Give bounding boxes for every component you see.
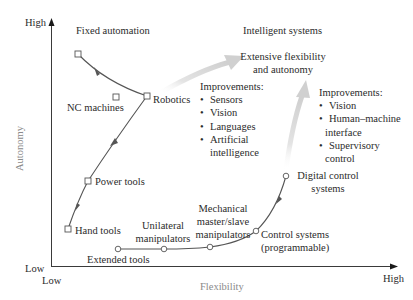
mechanical-manipulators-marker xyxy=(207,244,213,250)
improvement-item: Languages xyxy=(200,120,264,133)
y-axis-title: Autonomy xyxy=(14,124,25,174)
y-axis-high-label: High xyxy=(25,16,46,29)
digital-control-marker xyxy=(283,173,289,179)
improvement-item: Vision xyxy=(200,106,264,119)
improvement-item-continuation: control xyxy=(319,152,401,165)
autonomy-curve xyxy=(68,54,147,229)
label-line: Control systems xyxy=(261,228,329,241)
control-systems-label: Control systems (programmable) xyxy=(261,228,329,254)
power-tools-marker xyxy=(85,178,91,184)
goal-line-2: and autonomy xyxy=(228,63,338,76)
power-tools-label: Power tools xyxy=(95,175,145,188)
robotics-label: Robotics xyxy=(153,93,190,106)
y-axis xyxy=(49,18,55,266)
fixed-automation-label: Fixed automation xyxy=(76,24,150,37)
improvements-heading: Improvements: xyxy=(200,80,264,93)
improvement-item: Artificial xyxy=(200,133,264,146)
label-line: Mechanical xyxy=(188,202,258,215)
goal-label: Extensive flexibility and autonomy xyxy=(228,50,338,76)
extended-tools-marker xyxy=(115,246,121,252)
extended-tools-label: Extended tools xyxy=(87,253,150,266)
label-line: systems xyxy=(289,182,367,195)
improvements-heading: Improvements: xyxy=(319,86,401,99)
autonomy-flexibility-diagram: High Low Low High Flexibility Autonomy F… xyxy=(0,0,413,300)
x-axis-title: Flexibility xyxy=(200,280,244,293)
improvement-item: Vision xyxy=(319,99,401,112)
label-line: (programmable) xyxy=(261,241,329,254)
improvement-item-continuation: interface xyxy=(319,126,401,139)
improvement-item-continuation: intelligence xyxy=(200,146,264,159)
goal-line-1: Extensive flexibility xyxy=(228,50,338,63)
x-axis-high-label: High xyxy=(383,272,404,285)
robotics-marker xyxy=(144,93,150,99)
hand-tools-label: Hand tools xyxy=(75,224,121,237)
label-line: manipulators xyxy=(188,228,258,241)
label-line: master/slave xyxy=(188,215,258,228)
progression-arrow-right xyxy=(286,80,310,170)
improvements-right: Improvements: Vision Human–machine inter… xyxy=(319,86,401,165)
nc-machines-label: NC machines xyxy=(67,101,124,114)
improvement-item: Supervisory xyxy=(319,139,401,152)
mechanical-manipulators-label: Mechanical master/slave manipulators xyxy=(188,202,258,241)
unilateral-manipulators-marker xyxy=(161,246,167,252)
improvement-item: Human–machine xyxy=(319,112,401,125)
nc-machines-marker xyxy=(113,94,119,100)
hand-tools-marker xyxy=(65,226,71,232)
intelligent-systems-label: Intelligent systems xyxy=(243,24,322,37)
improvements-left: Improvements: Sensors Vision Languages A… xyxy=(200,80,264,159)
label-line: Digital control xyxy=(289,169,367,182)
improvement-item: Sensors xyxy=(200,93,264,106)
digital-control-label: Digital control systems xyxy=(289,169,367,195)
fixed-automation-marker xyxy=(75,51,81,57)
x-axis-low-label: Low xyxy=(42,274,61,287)
